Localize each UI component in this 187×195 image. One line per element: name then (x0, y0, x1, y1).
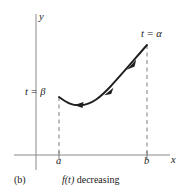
curve-direction-arrow-3 (127, 59, 136, 69)
caption-index-label: (b) (14, 174, 26, 185)
caption-description: f(t) decreasing (62, 174, 119, 185)
y-axis-label: y (39, 12, 44, 23)
caption-description-rest: decreasing (74, 174, 119, 185)
x-tick-label-a: a (56, 156, 61, 167)
curve-direction-arrow-1 (75, 102, 84, 108)
x-axis-label: x (171, 155, 176, 166)
curve-path (59, 45, 147, 105)
figure-caption: (b) f(t) decreasing (0, 174, 187, 190)
endpoint-label-t-beta: t = β (25, 87, 45, 98)
caption-function-symbol: f(t) (62, 174, 74, 185)
x-tick-label-b: b (144, 156, 149, 167)
figure-container: t = α t = β y x a b (b) f(t) decreasing (0, 0, 187, 195)
endpoint-label-t-alpha: t = α (141, 29, 162, 40)
